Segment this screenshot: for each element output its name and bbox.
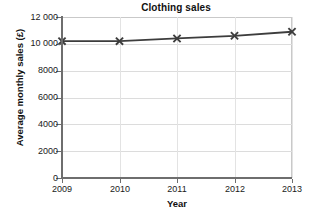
x-tick-label-2012: 2012 xyxy=(215,184,255,194)
y-axis-title: Average monthly sales (£) xyxy=(14,3,25,173)
x-tick-label-2010: 2010 xyxy=(100,184,140,194)
x-tick-label-2009: 2009 xyxy=(42,184,82,194)
x-tick-label-2011: 2011 xyxy=(157,184,197,194)
y-tick-label-0: 0 xyxy=(14,174,58,183)
series-line xyxy=(62,17,292,178)
x-tick-2013 xyxy=(292,179,293,183)
x-tick-2011 xyxy=(177,179,178,183)
x-tick-2010 xyxy=(120,179,121,183)
chart-title: Clothing sales xyxy=(60,1,292,14)
x-tick-label-2013: 2013 xyxy=(272,184,309,194)
x-tick-2009 xyxy=(62,179,63,183)
plot-area xyxy=(62,17,292,178)
clothing-sales-line-chart: Clothing sales 0200040006000800010 00012… xyxy=(0,0,309,215)
x-tick-2012 xyxy=(235,179,236,183)
y-axis-line xyxy=(61,16,63,179)
vertical-gridline-2013 xyxy=(292,17,293,178)
x-axis-title: Year xyxy=(62,198,292,209)
